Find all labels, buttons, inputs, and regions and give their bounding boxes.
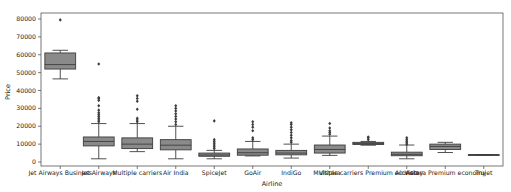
x-tick-label: GoAir (244, 169, 262, 176)
box-multiple-carriers-premium-economy (353, 135, 384, 145)
x-tick-label: Trujet (474, 169, 493, 177)
outlier-marker (97, 62, 100, 66)
iqr-box (45, 53, 76, 69)
box-vistara (314, 122, 345, 156)
box-indigo (276, 121, 307, 158)
outlier-marker (136, 94, 139, 98)
box-air-asia (391, 136, 422, 159)
y-tick-label: 20000 (16, 122, 36, 129)
box-goair (237, 120, 268, 156)
y-tick-label: 30000 (16, 104, 36, 111)
outlier-marker (97, 104, 100, 108)
x-tick-label: IndiGo (281, 169, 301, 176)
outlier-marker (328, 122, 331, 126)
box-vistara-premium-economy (430, 142, 461, 152)
y-tick-label: 80000 (16, 15, 36, 22)
x-tick-label: Jet Airways (81, 169, 116, 177)
y-tick-label: 70000 (16, 33, 36, 40)
outlier-marker (174, 104, 177, 108)
outlier-marker (251, 120, 254, 124)
y-tick-label: 60000 (16, 51, 36, 58)
chart-canvas: 0100002000030000400005000060000700008000… (0, 0, 511, 192)
x-tick-label: SpiceJet (202, 169, 227, 177)
y-tick-label: 0 (32, 158, 36, 165)
outlier-marker (59, 18, 62, 22)
y-tick-label: 50000 (16, 69, 36, 76)
outlier-marker (328, 126, 331, 130)
box-trujet (468, 155, 499, 156)
boxes-layer (45, 18, 499, 159)
iqr-box (237, 149, 268, 155)
x-tick-label: Air India (163, 169, 189, 176)
y-axis-label: Price (4, 84, 12, 100)
y-tick-label: 10000 (16, 140, 36, 147)
box-jet-airways-business (45, 18, 76, 79)
outlier-marker (97, 108, 100, 112)
x-tick-label: Multiple carriers (112, 169, 162, 177)
boxplot-chart: 0100002000030000400005000060000700008000… (0, 0, 511, 192)
y-axis: 0100002000030000400005000060000700008000… (16, 15, 41, 165)
x-axis: Jet Airways BusinessJet AirwaysMultiple … (27, 166, 492, 177)
outlier-marker (136, 107, 139, 111)
x-tick-label: Vistara Premium economy (405, 169, 487, 177)
box-jet-airways (83, 62, 114, 159)
box-multiple-carriers (122, 94, 153, 152)
outlier-marker (251, 129, 254, 133)
y-tick-label: 40000 (16, 87, 36, 94)
outlier-marker (213, 119, 216, 123)
box-spicejet (199, 119, 230, 159)
x-axis-label: Airline (262, 180, 283, 188)
box-air-india (160, 104, 191, 159)
iqr-box (122, 138, 153, 149)
